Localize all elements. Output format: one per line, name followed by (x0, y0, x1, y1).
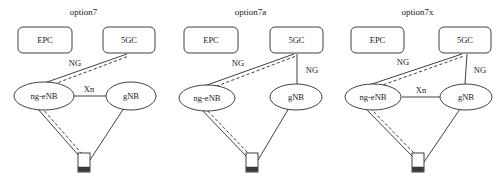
panel-title: option7 (0, 8, 167, 17)
ue-link-enb-solid (37, 108, 80, 157)
ng-enb-label: ng-eNB (344, 93, 402, 102)
ue-link-enb-solid (200, 108, 247, 157)
panel-option7a: option7a EPC 5GC ng-eNB gNB NG NG (167, 0, 334, 183)
xn-link-label: Xn (409, 86, 433, 95)
epc-label: EPC (18, 36, 72, 45)
fivegc-label: 5GC (439, 36, 491, 45)
fivegc-label: 5GC (103, 36, 155, 45)
ue-link-gnb-solid (90, 108, 124, 160)
panel-option7x: option7x EPC 5GC ng-eNB gNB NG NG Xn (334, 0, 501, 183)
gnb-ng-link-label: NG (300, 66, 324, 75)
ng-link-label: NG (225, 59, 251, 68)
panel-title: option7a (167, 8, 334, 17)
epc-label: EPC (184, 36, 238, 45)
xn-link-label: Xn (77, 85, 101, 94)
ng-enb-label: ng-eNB (178, 94, 236, 103)
network-options-figure: option7 EPC 5GC ng-eNB gNB NG Xn (0, 0, 501, 183)
ng-enb-label: ng-eNB (14, 92, 74, 101)
gnb-ng-link-label: NG (468, 66, 492, 75)
gnb-ng-link-solid (465, 54, 467, 84)
ue-link-enb-dashed (370, 108, 416, 155)
fivegc-label: 5GC (270, 36, 323, 45)
ue-link-enb-dashed (204, 107, 250, 155)
epc-label: EPC (351, 36, 404, 45)
gnb-label: gNB (441, 93, 491, 102)
ue-device-base (413, 167, 424, 172)
ng-link-label: NG (390, 58, 416, 67)
panel-title: option7x (334, 8, 501, 17)
ue-device-base (79, 167, 90, 172)
ue-link-enb-solid (366, 109, 413, 157)
ue-link-gnb-solid (258, 108, 289, 160)
gnb-label: gNB (271, 93, 321, 102)
panel-option7a-graphics (167, 0, 334, 183)
ng-link-label: NG (62, 59, 88, 68)
ue-device-base (247, 167, 258, 172)
panel-option7: option7 EPC 5GC ng-eNB gNB NG Xn (0, 0, 167, 183)
ue-link-gnb-solid (424, 109, 460, 162)
gnb-label: gNB (106, 92, 156, 101)
ue-link-enb-dashed (41, 107, 83, 155)
